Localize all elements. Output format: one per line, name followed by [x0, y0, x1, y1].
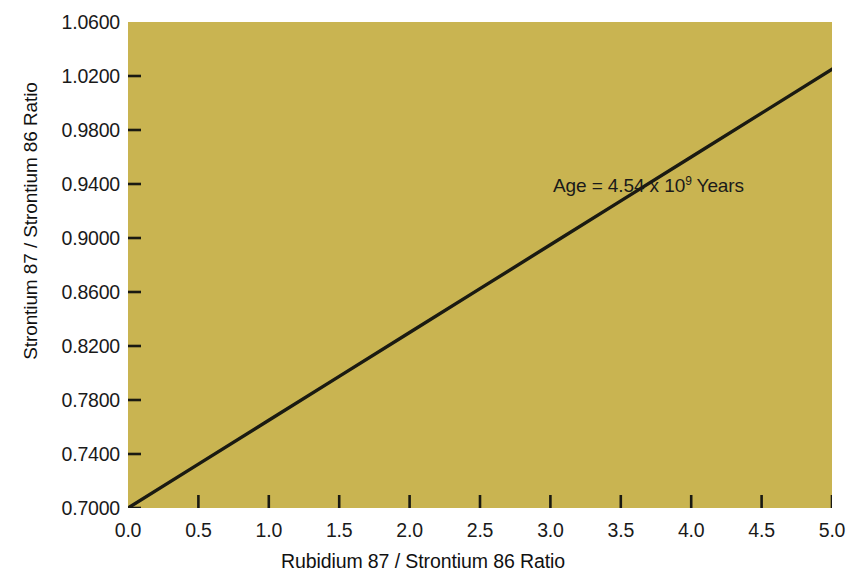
chart-figure: Age = 4.54 x 109 Years 0.70000.74000.780… — [0, 0, 846, 584]
y-tick-label: 0.7000 — [0, 498, 120, 518]
x-tick-label: 4.5 — [722, 518, 802, 542]
x-tick-label: 4.0 — [651, 518, 731, 542]
x-tick-label: 2.5 — [440, 518, 520, 542]
y-tick-marks — [128, 76, 141, 508]
age-annotation-exponent: 9 — [685, 174, 692, 188]
age-annotation-prefix: Age = 4.54 x 10 — [553, 175, 685, 196]
x-tick-label: 5.0 — [792, 518, 846, 542]
x-tick-label: 1.5 — [299, 518, 379, 542]
x-axis-title: Rubidium 87 / Strontium 86 Ratio — [0, 548, 846, 574]
y-axis-title: Strontium 87 / Strontium 86 Ratio — [14, 0, 48, 464]
x-tick-label: 0.0 — [88, 518, 168, 542]
plot-svg — [128, 22, 832, 508]
x-tick-label: 1.0 — [229, 518, 309, 542]
age-annotation: Age = 4.54 x 109 Years — [553, 174, 744, 198]
x-tick-marks — [198, 495, 832, 508]
x-tick-label: 2.0 — [370, 518, 450, 542]
x-tick-label: 0.5 — [158, 518, 238, 542]
x-tick-label: 3.0 — [510, 518, 590, 542]
x-axis-tick-labels: 0.00.51.01.52.02.53.03.54.04.55.0 — [0, 518, 846, 544]
x-tick-label: 3.5 — [581, 518, 661, 542]
isochron-line — [128, 69, 832, 508]
plot-area: Age = 4.54 x 109 Years — [128, 22, 832, 508]
age-annotation-suffix: Years — [692, 175, 744, 196]
